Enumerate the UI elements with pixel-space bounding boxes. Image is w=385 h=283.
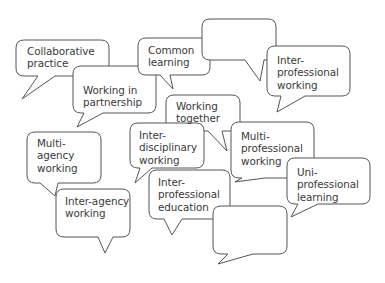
bubble-label-collaborative-practice: Collaborative practice: [27, 45, 95, 70]
bubble-label-multi-professional-working: Multi- professional working: [241, 130, 303, 167]
bubble-label-inter-professional-working: Inter- professional working: [277, 54, 339, 91]
speech-bubble-shape: [202, 19, 276, 81]
bubble-label-working-together: Working together: [176, 100, 220, 125]
speech-bubble-empty-top: [202, 19, 276, 81]
bubble-label-common-learning: Common learning: [148, 44, 194, 69]
bubble-label-working-in-partnership: Working in partnership: [83, 84, 142, 109]
bubble-label-inter-professional-education: Inter- professional education: [158, 176, 220, 213]
bubble-label-uni-professional-learning: Uni- professional learning: [297, 166, 359, 203]
speech-bubble-diagram: Collaborative practiceWorking in partner…: [0, 0, 385, 283]
speech-bubble-empty-bottom: [213, 206, 287, 264]
bubble-label-multi-agency-working: Multi- agency working: [37, 137, 78, 174]
speech-bubble-shape: [213, 206, 287, 264]
bubble-label-inter-disciplinary-working: Inter- disciplinary working: [139, 129, 197, 166]
bubble-label-inter-agency-working: Inter-agency working: [65, 195, 129, 220]
